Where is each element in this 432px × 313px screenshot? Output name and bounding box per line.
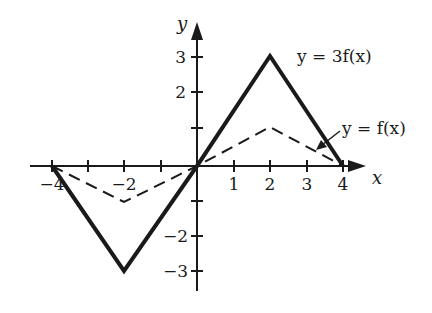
y-tick-label: −3 [163,261,188,281]
x-tick-label: 2 [265,174,276,194]
x-tick-label: −2 [111,174,136,194]
x-tick-label: 4 [338,174,349,194]
x-tick-label: 1 [229,174,240,194]
x-axis-label: x [372,167,382,188]
y-tick-labels: 3 2 −2 −3 [163,47,188,281]
y-tick-label: 2 [175,82,186,102]
label-3f: y = 3f(x) [296,46,372,66]
x-tick-label: 3 [302,174,313,194]
x-axis-arrow-icon [348,160,366,172]
y-tick-label: 3 [175,47,186,67]
label-f: y = f(x) [341,118,406,138]
y-axis-arrow-icon [191,22,203,40]
chart: −4 −2 1 2 3 4 3 2 −2 −3 y x y = 3f(x) y … [0,0,432,313]
y-tick-label: −2 [163,226,188,246]
y-axis-label: y [176,13,188,34]
